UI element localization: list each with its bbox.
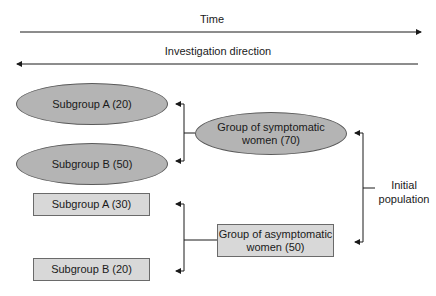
investigation-direction-label: Investigation direction — [148, 45, 288, 57]
symptomatic-subgroup-b-node: Subgroup B (50) — [16, 143, 168, 185]
asymptomatic-group-node: Group of asymptomatic women (50) — [217, 224, 334, 257]
initial-population-line1: Initial — [373, 178, 435, 192]
symptomatic-bracket — [176, 104, 195, 161]
symptomatic-subgroup-b-label: Subgroup B (50) — [52, 158, 133, 171]
symptomatic-subgroup-a-node: Subgroup A (20) — [16, 83, 168, 125]
time-label: Time — [190, 13, 234, 25]
symptomatic-group-line1: Group of symptomatic — [217, 121, 325, 134]
asymptomatic-subgroup-b-node: Subgroup B (20) — [33, 258, 150, 281]
asymptomatic-subgroup-a-node: Subgroup A (30) — [33, 193, 150, 216]
symptomatic-subgroup-a-label: Subgroup A (20) — [52, 98, 132, 111]
asymptomatic-subgroup-b-label: Subgroup B (20) — [51, 263, 132, 276]
asymptomatic-group-line1: Group of asymptomatic — [219, 228, 333, 241]
symptomatic-group-line2: women (70) — [242, 134, 300, 147]
asymptomatic-group-line2: women (50) — [246, 241, 304, 254]
initial-population-line2: population — [373, 192, 435, 206]
symptomatic-group-node: Group of symptomatic women (70) — [195, 112, 347, 155]
initial-population-bracket — [355, 133, 375, 242]
initial-population-label: Initial population — [373, 178, 435, 206]
asymptomatic-bracket — [176, 204, 217, 271]
asymptomatic-subgroup-a-label: Subgroup A (30) — [52, 198, 132, 211]
